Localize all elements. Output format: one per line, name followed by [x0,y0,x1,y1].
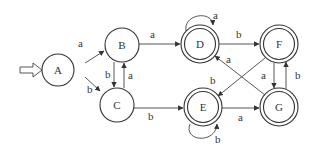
automaton-diagram: a b b a a b a b b a b a b a A B C D E F [0,0,314,154]
label-a-b: a [78,37,83,49]
svg-text:B: B [118,39,125,51]
state-f-accepting: F [260,25,298,63]
label-g-f: b [295,69,301,81]
state-e-accepting: E [184,88,222,126]
svg-text:G: G [275,101,283,113]
state-b: B [105,28,139,62]
edge-a-b [85,51,104,63]
svg-text:D: D [196,38,204,50]
label-g-d: a [226,53,231,65]
state-a: A [42,54,74,86]
label-e-e: b [215,133,221,145]
state-d-accepting: D [181,25,219,63]
label-c-e: b [148,110,154,122]
svg-text:C: C [113,99,120,111]
label-d-f: b [236,28,242,40]
label-f-g: a [261,69,266,81]
state-c: C [100,88,134,122]
label-f-e: b [210,74,216,86]
label-b-d: a [150,28,155,40]
state-g-accepting: G [260,88,298,126]
start-arrow-icon [20,63,42,77]
edge-g-d [215,56,265,95]
label-e-g: a [238,111,243,123]
label-a-c: b [87,83,93,95]
svg-text:E: E [200,101,207,113]
label-c-b: a [128,69,133,81]
svg-text:A: A [54,64,62,76]
label-b-c: b [105,68,111,80]
svg-text:F: F [276,38,282,50]
label-d-d: a [213,9,218,21]
